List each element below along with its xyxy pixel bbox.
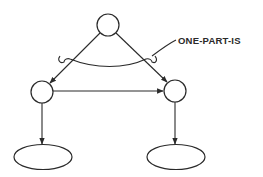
node-right [164,80,186,102]
node-left [31,81,53,103]
node-right-leaf [147,145,205,170]
semantic-network-diagram: ONE-PART-IS [0,0,263,177]
edge-top-to-right [116,33,167,82]
node-left-leaf [14,145,72,170]
annotation-label: ONE-PART-IS [178,35,241,46]
node-top [97,14,119,36]
edge-top-to-left [50,33,100,83]
annotation-leader-line [152,40,176,56]
